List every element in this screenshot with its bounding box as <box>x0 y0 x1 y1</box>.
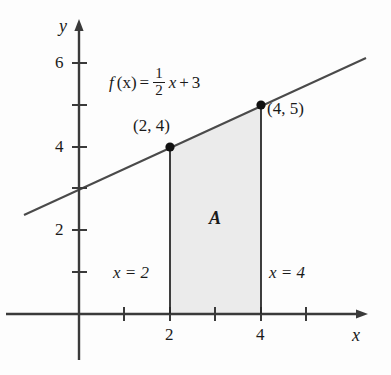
data-point-2-4 <box>165 142 174 151</box>
point-label-2-4: (2, 4) <box>133 117 170 134</box>
point-label-4-5: (4, 5) <box>267 100 304 117</box>
fraction-numerator: 1 <box>153 66 165 82</box>
y-tick-label-2: 2 <box>55 221 64 238</box>
constant-term: 3 <box>192 74 201 91</box>
x-tick-label-2: 2 <box>165 326 174 343</box>
data-point-4-5 <box>256 100 265 109</box>
area-region-label: A <box>209 209 221 227</box>
x-axis-arrow <box>356 309 368 318</box>
boundary-label-x2: x = 2 <box>113 264 149 281</box>
y-tick-label-6: 6 <box>55 54 64 71</box>
equals-sign: = <box>140 74 150 91</box>
y-axis-arrow <box>74 19 83 31</box>
fraction-denominator: 2 <box>153 82 165 99</box>
y-tick-label-4: 4 <box>55 138 64 155</box>
plus-sign: + <box>179 74 189 91</box>
x-tick-label-4: 4 <box>256 326 265 343</box>
function-expression-label: f(x) = 1 2 x + 3 <box>109 66 200 99</box>
function-name: f <box>109 74 114 91</box>
function-argument: (x) <box>117 74 137 91</box>
variable-x: x <box>169 74 177 91</box>
y-axis-label: y <box>59 17 67 35</box>
figure-container: y x 6 4 2 2 4 f(x) = 1 2 x + 3 (2, 4) (4… <box>0 0 391 375</box>
boundary-label-x4: x = 4 <box>269 264 305 281</box>
x-axis-label: x <box>352 326 360 344</box>
one-half-fraction: 1 2 <box>153 66 165 99</box>
